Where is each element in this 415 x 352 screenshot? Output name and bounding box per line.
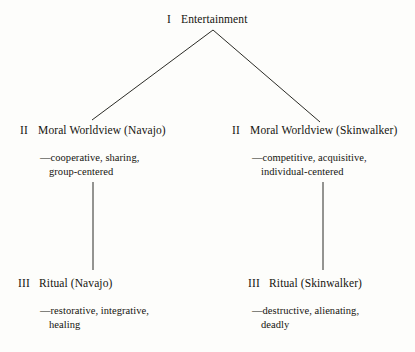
descriptor-level2-skinwalker-line1: —competitive, acquisitive, [252,152,367,163]
node-level3-ritual-skinwalker: IIIRitual (Skinwalker) [248,274,362,290]
descriptor-level2-navajo-line1: —cooperative, sharing, [40,152,139,163]
descriptor-level3-navajo: —restorative, integrative, healing [40,304,149,331]
descriptor-level2-skinwalker-line2: individual-centered [252,165,367,179]
numeral-level3-right: III [248,278,260,290]
node-level2-moral-worldview-skinwalker: IIMoral Worldview (Skinwalker) [232,121,397,137]
label-ritual-skinwalker: Ritual (Skinwalker) [269,278,362,290]
label-moral-worldview-navajo: Moral Worldview (Navajo) [38,125,166,137]
descriptor-level2-navajo-line2: group-centered [40,165,139,179]
node-level3-ritual-navajo: IIIRitual (Navajo) [18,274,112,290]
numeral-level2-right: II [232,125,240,137]
numeral-level3-left: III [18,278,30,290]
edge-apex-to-left [92,30,213,120]
descriptor-level3-skinwalker: —destructive, alienating, deadly [252,304,359,331]
descriptor-level3-skinwalker-line2: deadly [252,318,359,332]
edge-apex-to-right [213,30,320,122]
label-entertainment: Entertainment [181,14,247,26]
hierarchy-diagram: IEntertainment IIMoral Worldview (Navajo… [0,0,415,352]
descriptor-level2-skinwalker: —competitive, acquisitive, individual-ce… [252,151,367,178]
descriptor-level3-navajo-line1: —restorative, integrative, [40,305,149,316]
numeral-level2-left: II [20,125,28,137]
label-moral-worldview-skinwalker: Moral Worldview (Skinwalker) [250,125,397,137]
numeral-level1: I [167,14,171,26]
node-level1-entertainment: IEntertainment [167,10,247,26]
node-level2-moral-worldview-navajo: IIMoral Worldview (Navajo) [20,121,166,137]
descriptor-level3-navajo-line2: healing [40,318,149,332]
descriptor-level2-navajo: —cooperative, sharing, group-centered [40,151,139,178]
descriptor-level3-skinwalker-line1: —destructive, alienating, [252,305,359,316]
label-ritual-navajo: Ritual (Navajo) [39,278,112,290]
